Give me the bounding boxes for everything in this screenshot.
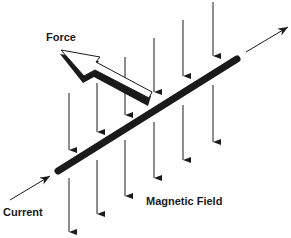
current-label: Current (3, 206, 43, 218)
force-arrow-icon (60, 50, 152, 106)
current-in-arrow-icon (10, 176, 50, 200)
magnetic-field-label: Magnetic Field (146, 195, 222, 207)
magnetic-force-diagram: Force Current Magnetic Field (0, 0, 291, 238)
force-label: Force (46, 31, 76, 43)
current-out-arrow-icon (246, 27, 288, 52)
